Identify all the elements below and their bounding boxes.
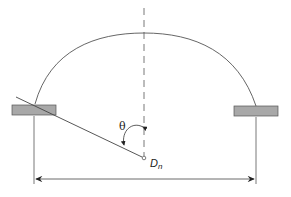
right-flange [234, 106, 278, 116]
nozzle-label-main: D [150, 157, 158, 169]
angle-label: θ [119, 120, 126, 133]
nozzle-center-point [142, 156, 146, 160]
nozzle-diameter-label: Dn [150, 157, 163, 171]
dome-arc [35, 33, 256, 106]
nozzle-label-sub: n [158, 162, 163, 171]
dome-diagram: θ Dn [0, 0, 291, 197]
angle-arc [123, 125, 143, 145]
left-flange [12, 105, 56, 115]
